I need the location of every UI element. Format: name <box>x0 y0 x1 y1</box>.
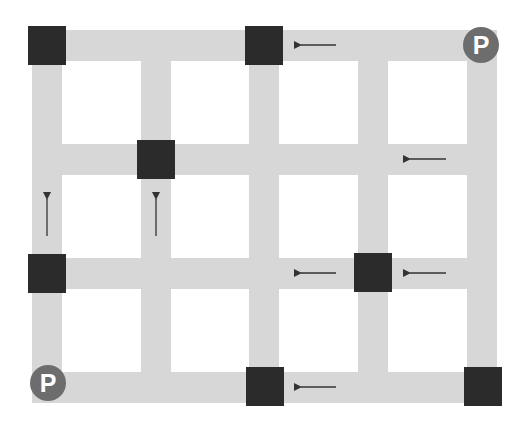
direction-arrows <box>0 0 527 426</box>
road-grid-diagram: P P <box>0 0 527 426</box>
